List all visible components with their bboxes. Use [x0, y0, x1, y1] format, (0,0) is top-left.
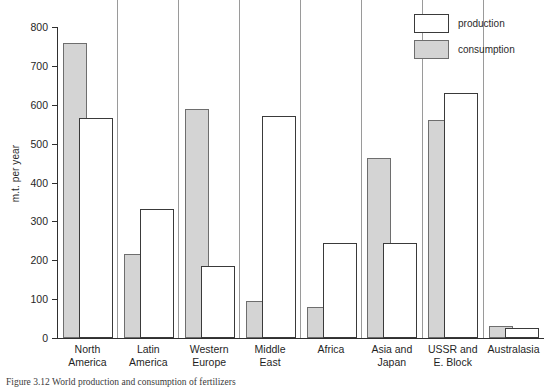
- plot-area: 0100200300400500600700800 North AmericaL…: [57, 27, 544, 338]
- bar-production: [505, 328, 539, 338]
- x-category-label: Australasia: [459, 343, 544, 356]
- legend-label: consumption: [458, 44, 515, 55]
- y-tick-label: 700: [30, 60, 48, 72]
- y-tick-label: 400: [30, 177, 48, 189]
- figure-caption: Figure 3.12 World production and consump…: [6, 377, 236, 387]
- bar-group: USSR and E. Block: [422, 27, 483, 338]
- bar-production: [262, 116, 296, 338]
- bar-group: North America: [57, 27, 118, 338]
- bar-production: [79, 118, 113, 338]
- bar-production: [140, 209, 174, 338]
- bar-group: Middle East: [240, 27, 301, 338]
- chart-legend: productionconsumption: [414, 14, 515, 66]
- bar-production: [444, 93, 478, 338]
- bar-group: Australasia: [483, 27, 544, 338]
- y-tick-label: 800: [30, 21, 48, 33]
- y-tick-label: 600: [30, 99, 48, 111]
- y-tick-label: 200: [30, 254, 48, 266]
- bar-production: [383, 243, 417, 338]
- figure-world-fertilizer-production-consumption: m.t. per year 0100200300400500600700800 …: [0, 0, 544, 387]
- x-axis-line: [57, 338, 544, 339]
- gray-square-icon: [414, 40, 449, 59]
- y-axis-label: m.t. per year: [10, 119, 21, 229]
- y-tick-label: 500: [30, 138, 48, 150]
- bar-production: [201, 266, 235, 338]
- bar-group: Asia and Japan: [361, 27, 422, 338]
- bar-group: Western Europe: [179, 27, 240, 338]
- legend-item-production: production: [414, 14, 515, 33]
- y-tick-label: 300: [30, 215, 48, 227]
- legend-label: production: [458, 18, 505, 29]
- bar-group: Africa: [301, 27, 362, 338]
- y-tick-mark: [52, 338, 57, 339]
- bar-group: Latin America: [118, 27, 179, 338]
- y-tick-label: 100: [30, 293, 48, 305]
- bar-production: [323, 243, 357, 338]
- legend-item-consumption: consumption: [414, 40, 515, 59]
- white-square-icon: [414, 14, 449, 33]
